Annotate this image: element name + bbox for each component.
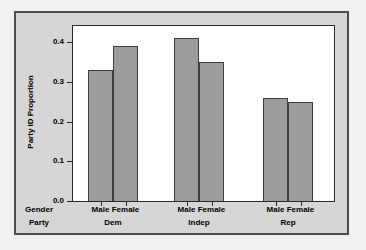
bar-rep-female: [288, 102, 313, 201]
bar-dem-female: [113, 46, 138, 201]
bar-rep-male: [263, 98, 288, 201]
bar-indep-male: [174, 38, 199, 201]
gender-tick-label: Female: [106, 205, 146, 215]
party-row-label: Party: [16, 218, 62, 228]
party-tick-label: Indep: [169, 218, 229, 228]
party-tick-label: Rep: [258, 218, 318, 228]
y-tick-label: 0.4: [24, 37, 64, 47]
gender-tick-label: Female: [281, 205, 321, 215]
y-tick-label: 0.1: [24, 156, 64, 166]
page-background: { "chart": { "colors": { "page_bg": "#f1…: [0, 0, 366, 250]
gender-tick-label: Female: [192, 205, 232, 215]
bar-indep-female: [199, 62, 224, 201]
plot-area: [72, 25, 335, 202]
y-tick-label: 0.3: [24, 77, 64, 87]
bar-chart-figure: Party ID Proportion 0.00.10.20.30.4 Male…: [14, 11, 349, 235]
bar-dem-male: [88, 70, 113, 201]
gender-row-label: Gender: [16, 205, 62, 215]
y-axis-title: Party ID Proportion: [25, 52, 37, 172]
y-tick-label: 0.2: [24, 117, 64, 127]
party-tick-label: Dem: [83, 218, 143, 228]
